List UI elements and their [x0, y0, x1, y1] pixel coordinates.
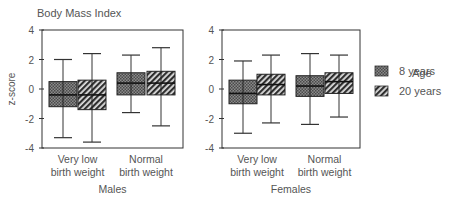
category-label: birth weight: [298, 166, 352, 178]
y-axis-label: z-score: [6, 72, 17, 105]
panel-label: Males: [98, 183, 126, 195]
y-tick-label: 4: [208, 25, 214, 36]
category-label: Normal: [129, 153, 163, 165]
y-tick-label: 0: [208, 84, 214, 95]
y-tick-label: 2: [28, 55, 34, 66]
box-8-years-1: [296, 54, 324, 125]
category-label: birth weight: [51, 166, 105, 178]
box-8-years-0: [49, 60, 77, 138]
box-20-years-1: [325, 55, 353, 117]
legend-swatch-20-years: [375, 86, 388, 96]
y-tick-label: 4: [28, 25, 34, 36]
legend-label-20-years: 20 years: [399, 85, 442, 97]
y-tick-label: 0: [28, 84, 34, 95]
chart-root: Body Mass Index z-score 420-2-4Very lowb…: [0, 0, 451, 201]
legend-label-8-years: 8 years: [399, 65, 436, 77]
category-label: Very low: [237, 153, 277, 165]
category-label: birth weight: [119, 166, 173, 178]
y-tick-label: -2: [205, 114, 214, 125]
chart-title: Body Mass Index: [37, 7, 122, 19]
category-label: Very low: [58, 153, 98, 165]
boxplot-chart: Body Mass Index z-score 420-2-4Very lowb…: [0, 0, 451, 201]
box-8-years-0: [229, 61, 257, 133]
legend-swatch-8-years: [375, 66, 388, 76]
y-tick-label: -2: [25, 114, 34, 125]
box-20-years-0: [257, 55, 285, 123]
box-8-years-1: [117, 55, 145, 113]
panels: 420-2-4Very lowbirth weightNormalbirth w…: [25, 25, 360, 195]
panel-males: 420-2-4Very lowbirth weightNormalbirth w…: [25, 25, 183, 195]
y-tick-label: -4: [205, 143, 214, 154]
category-label: Normal: [308, 153, 342, 165]
legend: Age 8 years 20 years: [375, 65, 442, 97]
category-label: birth weight: [230, 166, 284, 178]
box-20-years-1: [147, 48, 175, 126]
panel-females: 420-2-4Very lowbirth weightNormalbirth w…: [205, 25, 360, 195]
y-tick-label: 2: [208, 55, 214, 66]
panel-label: Females: [271, 183, 311, 195]
y-tick-label: -4: [25, 143, 34, 154]
box-20-years-0: [78, 54, 106, 143]
